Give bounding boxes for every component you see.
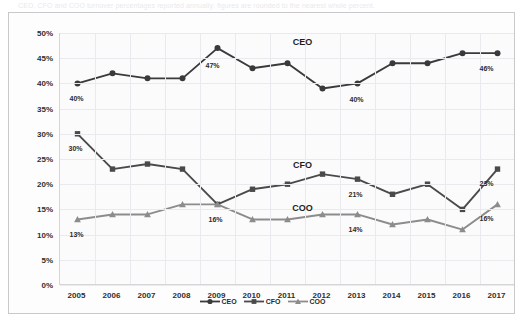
gridline-vertical <box>305 33 306 284</box>
data-point-label: 23% <box>479 180 493 187</box>
data-point-marker-ceo <box>110 70 116 76</box>
x-axis-tick-label: 2017 <box>479 291 515 300</box>
y-axis-tick-label: 30% <box>9 129 53 138</box>
x-axis-tick-label: 2007 <box>129 291 165 300</box>
gridline-vertical <box>235 33 236 284</box>
data-point-marker-cfo <box>110 166 115 171</box>
caption-text: CEO, CFO and COO turnover percentages re… <box>0 0 523 12</box>
gridline-vertical <box>270 33 271 284</box>
data-point-marker-cfo <box>250 187 255 192</box>
gridline-horizontal <box>60 285 514 286</box>
x-axis-tick-label: 2014 <box>374 291 410 300</box>
data-point-label: 40% <box>349 96 363 103</box>
x-axis-tick-label: 2008 <box>164 291 200 300</box>
gridline-vertical <box>165 33 166 284</box>
series-line-ceo <box>78 48 498 88</box>
y-axis-tick-label: 20% <box>9 180 53 189</box>
gridline-vertical <box>410 33 411 284</box>
data-point-marker-cfo <box>390 192 395 197</box>
data-point-marker-ceo <box>215 45 221 51</box>
x-axis-tick-label: 2005 <box>59 291 95 300</box>
y-axis-tick-label: 35% <box>9 104 53 113</box>
gridline-vertical <box>130 33 131 284</box>
y-axis-tick-label: 45% <box>9 54 53 63</box>
data-point-marker-coo <box>494 201 501 207</box>
data-point-marker-ceo <box>180 75 186 81</box>
data-point-marker-cfo <box>495 166 500 171</box>
y-axis-tick-label: 40% <box>9 79 53 88</box>
data-point-label: 16% <box>479 215 493 222</box>
data-point-label: 14% <box>348 226 362 233</box>
data-point-marker-ceo <box>460 50 466 56</box>
data-point-label: 16% <box>208 216 222 223</box>
gridline-vertical <box>375 33 376 284</box>
data-point-marker-ceo <box>425 60 431 66</box>
x-axis-tick-label: 2006 <box>94 291 130 300</box>
x-axis-tick-label: 2010 <box>234 291 270 300</box>
data-point-marker-ceo <box>250 65 256 71</box>
data-point-label: 30% <box>68 144 82 151</box>
data-point-marker-ceo <box>495 50 501 56</box>
series-inline-label-coo: COO <box>292 203 313 213</box>
x-axis-tick-label: 2013 <box>339 291 375 300</box>
gridline-vertical <box>95 33 96 284</box>
series-inline-label-ceo: CEO <box>293 37 313 47</box>
data-point-label: 21% <box>348 191 362 198</box>
gridline-vertical <box>200 33 201 284</box>
data-point-marker-ceo <box>320 85 326 91</box>
y-axis-tick-label: 25% <box>9 155 53 164</box>
y-axis-tick-label: 5% <box>9 255 53 264</box>
y-axis-tick-label: 10% <box>9 230 53 239</box>
gridline-vertical <box>340 33 341 284</box>
x-axis-tick-label: 2009 <box>199 291 235 300</box>
chart-frame: CEOCFOCOO 0%5%10%15%20%25%30%35%40%45%50… <box>8 12 515 314</box>
series-inline-label-cfo: CFO <box>293 160 312 170</box>
data-point-marker-cfo <box>355 176 360 181</box>
y-axis-tick-label: 50% <box>9 29 53 38</box>
data-point-marker-ceo <box>145 75 151 81</box>
gridline-vertical <box>445 33 446 284</box>
data-point-marker-ceo <box>390 60 396 66</box>
plot-area <box>59 33 514 285</box>
data-point-label: 47% <box>205 62 219 69</box>
data-point-marker-cfo <box>320 171 325 176</box>
x-axis-tick-label: 2016 <box>444 291 480 300</box>
x-axis-tick-label: 2012 <box>304 291 340 300</box>
data-point-label: 13% <box>69 231 83 238</box>
x-axis-tick-label: 2011 <box>269 291 305 300</box>
y-axis-tick-label: 0% <box>9 281 53 290</box>
chart-screenshot: CEO, CFO and COO turnover percentages re… <box>0 0 523 326</box>
y-axis-tick-label: 15% <box>9 205 53 214</box>
data-point-label: 40% <box>69 95 83 102</box>
data-point-marker-cfo <box>180 166 185 171</box>
x-axis-tick-label: 2015 <box>409 291 445 300</box>
series-line-cfo <box>78 134 498 210</box>
data-point-marker-cfo <box>145 161 150 166</box>
data-point-label: 46% <box>479 65 493 72</box>
data-point-marker-ceo <box>285 60 291 66</box>
